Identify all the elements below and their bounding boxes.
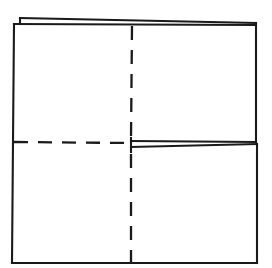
wedge-upper-line xyxy=(131,141,256,142)
outer-top-edge xyxy=(14,24,256,25)
figure-canvas xyxy=(0,0,272,268)
crease-pattern-figure xyxy=(0,0,272,268)
figure-background xyxy=(0,0,272,268)
